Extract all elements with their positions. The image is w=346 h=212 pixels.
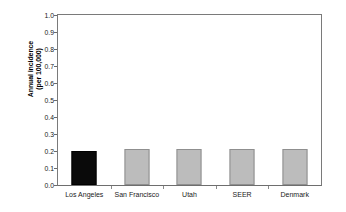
y-tick-mark [54, 151, 57, 152]
chart-figure: Annual incidence (per 100,000) 0.00.10.2… [0, 0, 346, 212]
x-tick-label: Denmark [280, 190, 308, 199]
y-tick-mark [54, 15, 57, 16]
bar-seer[interactable] [230, 149, 255, 185]
y-tick-label: 0.8 [30, 46, 54, 53]
y-tick-mark [54, 134, 57, 135]
bar-slot [216, 15, 269, 185]
y-tick-mark [54, 168, 57, 169]
x-tick-mark [216, 186, 217, 189]
bar-los-angeles[interactable] [72, 151, 97, 185]
bars-layer [58, 15, 321, 185]
x-tick-label: SEER [233, 190, 252, 199]
y-tick-label: 0.5 [30, 97, 54, 104]
y-tick-label: 1.0 [30, 12, 54, 19]
y-tick-mark [54, 185, 57, 186]
x-tick-label: Utah [182, 190, 197, 199]
y-tick-label: 0.9 [30, 29, 54, 36]
x-tick-mark [163, 186, 164, 189]
y-tick-label: 0.2 [30, 148, 54, 155]
y-tick-mark [54, 66, 57, 67]
bar-slot [58, 15, 111, 185]
y-tick-mark [54, 100, 57, 101]
y-tick-label: 0.7 [30, 63, 54, 70]
bar-utah[interactable] [177, 149, 202, 185]
x-tick-label: Los Angeles [65, 190, 103, 199]
x-tick-label: San Francisco [115, 190, 160, 199]
y-tick-mark [54, 117, 57, 118]
bar-slot [111, 15, 164, 185]
bar-slot [268, 15, 321, 185]
y-tick-mark [54, 32, 57, 33]
y-tick-label: 0.1 [30, 165, 54, 172]
y-tick-mark [54, 49, 57, 50]
y-tick-label: 0.0 [30, 182, 54, 189]
bar-denmark[interactable] [282, 149, 307, 185]
bar-san-francisco[interactable] [124, 149, 149, 185]
y-axis-tick-labels: 0.00.10.20.30.40.50.60.70.80.91.0 [30, 0, 54, 212]
y-tick-label: 0.6 [30, 80, 54, 87]
x-tick-mark [268, 186, 269, 189]
x-axis-tick-labels: Los AngelesSan FranciscoUtahSEERDenmark [57, 190, 322, 206]
y-tick-label: 0.4 [30, 114, 54, 121]
bar-slot [163, 15, 216, 185]
x-tick-mark [111, 186, 112, 189]
y-tick-mark [54, 83, 57, 84]
y-tick-label: 0.3 [30, 131, 54, 138]
